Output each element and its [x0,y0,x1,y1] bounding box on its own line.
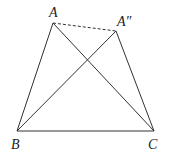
segment-AC [53,23,154,131]
label-C: C [148,137,158,152]
segment-A2C [116,31,154,131]
segment-AA2-dashed [53,23,116,31]
geometry-diagram: A A″ B C [0,0,169,154]
segment-AB [17,23,53,131]
label-B: B [11,137,20,152]
label-A-double-prime: A″ [116,14,132,29]
label-A: A [48,5,58,20]
segment-A2B [17,31,116,131]
